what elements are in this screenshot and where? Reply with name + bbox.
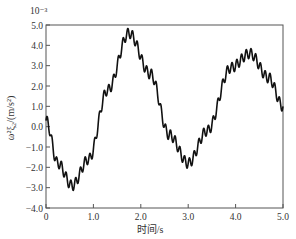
y-tick-label: −1.0 (26, 143, 43, 153)
y-tick-label: −4.0 (26, 204, 43, 214)
y-tick-label: −3.0 (26, 183, 43, 193)
y-tick-label: 5.0 (31, 21, 43, 31)
y-tick-label: 1.0 (31, 102, 43, 112)
y-axis-label: ω²ξ₂/(m/s²) (5, 96, 17, 140)
x-tick-label: 3.0 (182, 212, 194, 222)
y-tick-label: 2.0 (31, 82, 43, 92)
chart: 10⁻³ −4.0−3.0−2.0−1.00.01.02.03.04.05.0 … (0, 0, 296, 239)
y-tick-label: 4.0 (31, 41, 43, 51)
x-tick-label: 4.0 (230, 212, 242, 222)
x-tick-label: 5.0 (277, 212, 289, 222)
data-line (46, 28, 283, 190)
x-tick-label: 2.0 (135, 212, 147, 222)
y-tick-label: 3.0 (31, 61, 43, 71)
y-tick-label: 0.0 (31, 122, 43, 132)
x-axis-label: 时间/s (137, 223, 164, 235)
x-tick-label: 0 (44, 212, 49, 222)
x-axis: 01.02.03.04.05.0 (44, 204, 290, 222)
x-tick-label: 1.0 (87, 212, 99, 222)
y-scale-note: 10⁻³ (30, 6, 48, 16)
y-tick-label: −2.0 (26, 163, 43, 173)
